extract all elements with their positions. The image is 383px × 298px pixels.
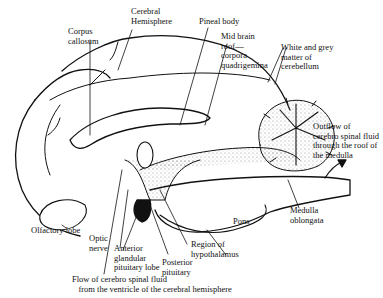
label-pons: Pons <box>233 217 250 227</box>
label-olfactory-lobe: Olfactory lobe <box>31 226 80 236</box>
label-pineal-body: Pineal body <box>199 17 239 27</box>
label-cerebral-hemisphere: Cerebral Hemisphere <box>131 7 172 26</box>
label-anterior-pituitary: Anterior glandular pituitary lobe <box>114 244 160 273</box>
label-corpus-callosum: Corpus callosum <box>68 27 99 46</box>
label-outflow-csf: Outflow of cerebro spinal fluid through … <box>313 122 379 160</box>
label-optic-nerve: Optic nerve <box>89 234 108 253</box>
pituitary-gland <box>134 200 151 222</box>
label-region-hypothalamus: Region of hypothalamus <box>191 240 239 259</box>
thalamus <box>137 142 153 168</box>
label-medulla-oblongata: Medulla oblongata <box>290 206 324 225</box>
label-white-grey-matter: White and grey matter of cerebellum <box>281 43 333 72</box>
corpus-callosum-shape <box>70 108 210 148</box>
label-mid-brain-roof: Mid brain roof— corpora quadrigemina <box>221 32 268 70</box>
label-flow-csf: Flow of cerebro spinal fluid from the ve… <box>72 275 232 294</box>
